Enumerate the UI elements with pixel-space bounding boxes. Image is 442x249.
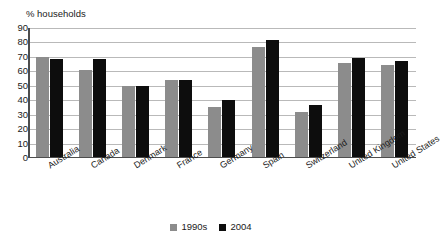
x-axis-label-slot: Spain	[244, 160, 287, 218]
bar	[36, 57, 49, 158]
y-axis-tick-label: 90	[17, 23, 28, 33]
bar	[50, 59, 63, 158]
y-axis-tick-label: 40	[17, 95, 28, 105]
plot-area	[28, 28, 416, 158]
legend-swatch	[170, 224, 177, 231]
y-axis-tick-label: 10	[17, 139, 28, 149]
bar	[165, 80, 178, 158]
x-axis-label-slot: United States	[373, 160, 416, 218]
bar	[93, 59, 106, 158]
bar	[136, 86, 149, 158]
legend-entry: 2004	[219, 222, 251, 232]
bar	[79, 70, 92, 158]
y-axis-tick-label: 20	[17, 124, 28, 134]
x-axis-label-slot: United Kingdom	[330, 160, 373, 218]
y-axis-tick-label: 60	[17, 66, 28, 76]
legend-swatch	[219, 224, 226, 231]
bar	[266, 40, 279, 158]
legend-label: 1990s	[181, 222, 207, 232]
y-axis-tick-label: 30	[17, 110, 28, 120]
x-axis-label-slot: Canada	[71, 160, 114, 218]
x-axis-label-slot: France	[157, 160, 200, 218]
bar-group	[200, 28, 243, 158]
bar	[309, 105, 322, 158]
bar	[252, 47, 265, 158]
bar-group	[28, 28, 71, 158]
bar	[352, 58, 365, 158]
x-axis-label-slot: Germany	[200, 160, 243, 218]
bar-group	[114, 28, 157, 158]
legend-label: 2004	[230, 222, 251, 232]
x-axis-category-labels: AustraliaCanadaDenmarkFranceGermanySpain…	[28, 160, 416, 218]
x-axis-label-slot: Denmark	[114, 160, 157, 218]
bar-group	[157, 28, 200, 158]
bar	[208, 107, 221, 158]
chart-legend: 1990s2004	[0, 222, 422, 232]
y-axis-tick-label: 80	[17, 37, 28, 47]
bar-group	[287, 28, 330, 158]
bar	[122, 86, 135, 158]
bar	[179, 80, 192, 158]
y-axis-tick-label: 70	[17, 52, 28, 62]
y-axis-tick-label: 50	[17, 81, 28, 91]
legend-entry: 1990s	[170, 222, 207, 232]
bar-group	[244, 28, 287, 158]
bar-group	[71, 28, 114, 158]
bar-group	[330, 28, 373, 158]
bar	[222, 100, 235, 158]
x-axis-label-slot: Switzerland	[287, 160, 330, 218]
x-axis-label-slot: Australia	[28, 160, 71, 218]
bar	[295, 112, 308, 158]
bars-layer	[28, 28, 416, 158]
chart-axis-title: % households	[26, 8, 86, 19]
bar	[395, 61, 408, 159]
